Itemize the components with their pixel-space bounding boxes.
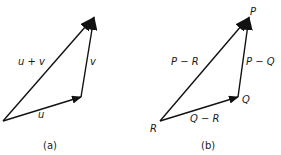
diagram-a: u + v v u (a) — [3, 17, 97, 151]
label-v: v — [90, 56, 97, 67]
label-p-minus-q: P − Q — [246, 56, 275, 67]
caption-b: (b) — [201, 140, 215, 151]
vector-diagram: u + v v u (a) P P − R P − Q Q Q − R R (b… — [0, 0, 281, 155]
label-point-r: R — [150, 123, 157, 134]
label-point-q: Q — [242, 94, 250, 105]
label-u-plus-v: u + v — [18, 56, 46, 67]
label-u: u — [38, 109, 44, 120]
label-q-minus-r: Q − R — [190, 113, 220, 124]
vector-p-minus-r-arrow — [160, 18, 248, 121]
label-p-minus-r: P − R — [171, 56, 199, 67]
diagram-b: P P − R P − Q Q Q − R R (b) — [150, 6, 275, 151]
label-point-p: P — [250, 6, 257, 17]
vector-u-plus-v-arrow — [3, 18, 93, 121]
caption-a: (a) — [43, 140, 57, 151]
